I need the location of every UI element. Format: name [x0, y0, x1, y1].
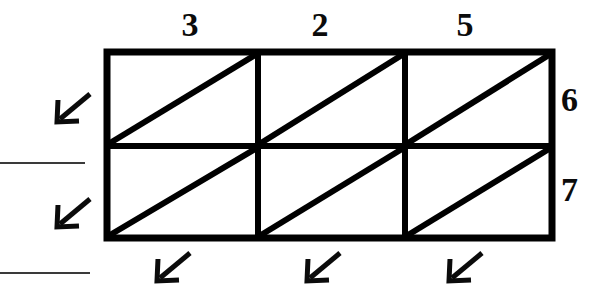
- diagonal-r1c1: [110, 55, 255, 143]
- inner-grid-lines-group: [107, 52, 552, 238]
- column-label-2: 2: [312, 8, 329, 42]
- left-arrow-row-2-icon: [57, 199, 90, 227]
- left-arrow-row-1-icon: [57, 94, 90, 122]
- bottom-arrow-col-3-icon: [449, 253, 482, 281]
- diagonal-r1c2: [261, 55, 402, 143]
- row-label-1: 6: [561, 83, 578, 117]
- bottom-arrow-col-2-icon: [307, 253, 340, 281]
- bottom-arrow-col-1-icon: [157, 253, 190, 281]
- left-arrows-group: [57, 94, 90, 227]
- column-label-3: 5: [457, 8, 474, 42]
- column-label-1: 3: [182, 8, 199, 42]
- diagonal-r1c3: [408, 55, 549, 143]
- figure-canvas: 3 2 5 6 7: [0, 0, 589, 290]
- diagonal-r2c1: [110, 149, 255, 235]
- diagonal-r2c3: [408, 149, 549, 235]
- bottom-arrows-group: [157, 253, 482, 281]
- row-label-2: 7: [561, 173, 578, 207]
- grid-diagram: [0, 0, 589, 290]
- diagonal-r2c2: [261, 149, 402, 235]
